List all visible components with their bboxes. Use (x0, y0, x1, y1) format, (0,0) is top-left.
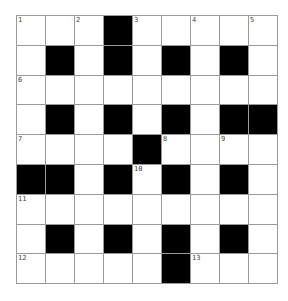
black-square (104, 225, 133, 255)
crossword-cell[interactable] (133, 105, 162, 135)
crossword-cell[interactable] (75, 46, 104, 76)
crossword-cell[interactable] (191, 46, 220, 76)
crossword-cell[interactable]: 12 (17, 254, 46, 284)
black-square (104, 46, 133, 76)
black-square (249, 105, 278, 135)
crossword-cell[interactable] (46, 254, 75, 284)
clue-number: 13 (192, 254, 200, 263)
crossword-cell[interactable] (46, 135, 75, 165)
crossword-cell[interactable] (133, 225, 162, 255)
clue-number: 3 (134, 16, 138, 25)
crossword-cell[interactable] (162, 76, 191, 106)
crossword-cell[interactable] (104, 254, 133, 284)
crossword-grid: 12345678910111213 (16, 15, 278, 284)
crossword-cell[interactable]: 6 (17, 76, 46, 106)
crossword-cell[interactable]: 13 (191, 254, 220, 284)
crossword-cell[interactable] (75, 195, 104, 225)
crossword-cell[interactable]: 8 (162, 135, 191, 165)
black-square (104, 105, 133, 135)
crossword-cell[interactable] (249, 254, 278, 284)
black-square (220, 225, 249, 255)
crossword-cell[interactable] (220, 16, 249, 46)
clue-number: 10 (134, 165, 142, 174)
crossword-cell[interactable] (133, 46, 162, 76)
black-square (46, 165, 75, 195)
clue-number: 4 (192, 16, 196, 25)
crossword-cell[interactable] (191, 165, 220, 195)
black-square (46, 105, 75, 135)
black-square (162, 254, 191, 284)
crossword-cell[interactable] (249, 135, 278, 165)
clue-number: 8 (163, 135, 167, 144)
crossword-cell[interactable] (133, 76, 162, 106)
clue-number: 1 (18, 16, 22, 25)
crossword-cell[interactable]: 7 (17, 135, 46, 165)
crossword-cell[interactable] (17, 225, 46, 255)
clue-number: 7 (18, 135, 22, 144)
crossword-cell[interactable] (191, 225, 220, 255)
crossword-cell[interactable] (133, 254, 162, 284)
crossword-cell[interactable] (17, 105, 46, 135)
crossword-cell[interactable] (75, 254, 104, 284)
black-square (162, 225, 191, 255)
crossword-cell[interactable]: 2 (75, 16, 104, 46)
black-square (162, 165, 191, 195)
black-square (162, 46, 191, 76)
crossword-cell[interactable] (220, 254, 249, 284)
black-square (46, 46, 75, 76)
crossword-cell[interactable] (220, 76, 249, 106)
crossword-cell[interactable] (191, 76, 220, 106)
crossword-cell[interactable] (249, 46, 278, 76)
crossword-cell[interactable] (46, 76, 75, 106)
crossword-cell[interactable]: 1 (17, 16, 46, 46)
black-square (133, 135, 162, 165)
crossword-cell[interactable] (162, 195, 191, 225)
black-square (220, 105, 249, 135)
crossword-cell[interactable] (46, 16, 75, 46)
black-square (104, 165, 133, 195)
crossword-cell[interactable]: 3 (133, 16, 162, 46)
crossword-cell[interactable] (191, 135, 220, 165)
black-square (162, 105, 191, 135)
crossword-cell[interactable] (133, 195, 162, 225)
crossword-cell[interactable] (75, 225, 104, 255)
black-square (220, 165, 249, 195)
crossword-cell[interactable]: 11 (17, 195, 46, 225)
crossword-cell[interactable]: 5 (249, 16, 278, 46)
crossword-cell[interactable]: 9 (220, 135, 249, 165)
black-square (46, 225, 75, 255)
crossword-cell[interactable] (191, 195, 220, 225)
crossword-cell[interactable] (104, 135, 133, 165)
crossword-cell[interactable]: 4 (191, 16, 220, 46)
crossword-cell[interactable] (249, 195, 278, 225)
crossword-cell[interactable] (75, 76, 104, 106)
crossword-cell[interactable] (249, 225, 278, 255)
crossword-cell[interactable] (46, 195, 75, 225)
crossword-cell[interactable] (17, 46, 46, 76)
crossword-cell[interactable] (104, 76, 133, 106)
clue-number: 9 (221, 135, 225, 144)
crossword-cell[interactable] (104, 195, 133, 225)
crossword-cell[interactable] (162, 16, 191, 46)
crossword-cell[interactable] (191, 105, 220, 135)
crossword-cell[interactable] (249, 165, 278, 195)
clue-number: 2 (76, 16, 80, 25)
crossword-cell[interactable]: 10 (133, 165, 162, 195)
clue-number: 5 (250, 16, 254, 25)
clue-number: 12 (18, 254, 26, 263)
black-square (17, 165, 46, 195)
crossword-cell[interactable] (75, 165, 104, 195)
clue-number: 6 (18, 76, 22, 85)
crossword-cell[interactable] (75, 105, 104, 135)
black-square (220, 46, 249, 76)
crossword-cell[interactable] (220, 195, 249, 225)
crossword-cell[interactable] (249, 76, 278, 106)
black-square (104, 16, 133, 46)
crossword-cell[interactable] (75, 135, 104, 165)
clue-number: 11 (18, 195, 26, 204)
